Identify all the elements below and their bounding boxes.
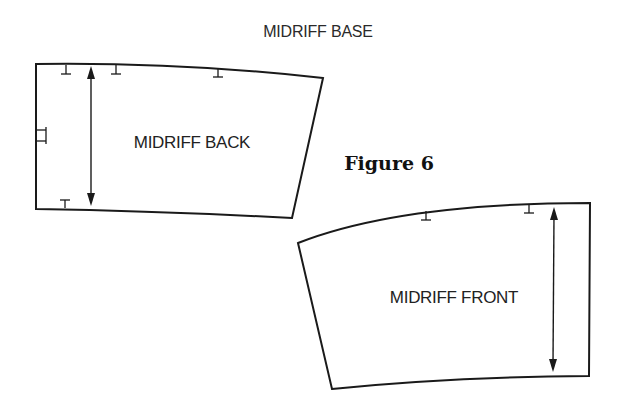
midriff-front-label: MIDRIFF FRONT (390, 288, 518, 307)
diagram-title: MIDRIFF BASE (263, 23, 373, 40)
midriff-pattern-diagram: MIDRIFF BASE (0, 0, 625, 415)
midriff-back-piece: MIDRIFF BACK (36, 64, 323, 218)
midriff-front-piece: MIDRIFF FRONT (298, 203, 590, 389)
midriff-back-label: MIDRIFF BACK (134, 133, 251, 152)
figure-label: Figure 6 (344, 152, 434, 174)
